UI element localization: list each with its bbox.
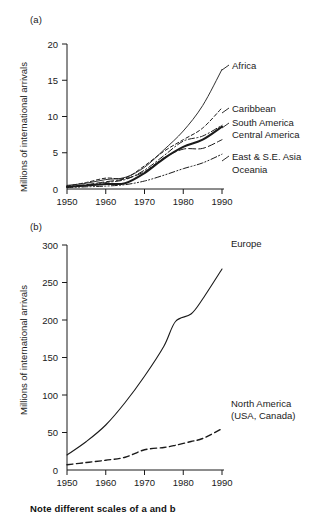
panel-b-series-group xyxy=(67,269,222,465)
panel-b-y-ticks: 300 250 200 150 100 50 0 xyxy=(42,240,67,476)
panel-b-ytick-0: 0 xyxy=(53,465,58,476)
series-line-south-america xyxy=(67,125,222,187)
panel-b-ytick-250: 250 xyxy=(42,277,58,288)
panel-a-series-group xyxy=(67,65,229,188)
panel-a-ytick-10: 10 xyxy=(47,111,58,122)
panel-a-ytick-0: 0 xyxy=(53,184,58,195)
series-label-north-america-line1: North America xyxy=(231,398,292,409)
panel-a-ytick-15: 15 xyxy=(47,75,58,86)
chart-panel-a: (a) Millions of international arrivals 2… xyxy=(0,0,315,215)
panel-a-x-ticks: 1950 1960 1970 1980 1990 xyxy=(56,189,232,207)
panel-a-y-ticks: 20 15 10 5 0 xyxy=(47,39,67,195)
figure-international-arrivals: (a) Millions of international arrivals 2… xyxy=(0,0,315,527)
series-label-central-america: Central America xyxy=(232,129,300,140)
series-line-africa xyxy=(67,69,222,185)
panel-b-xtick-1950: 1950 xyxy=(56,477,77,488)
panel-b-ytick-100: 100 xyxy=(42,390,58,401)
series-line-caribbean xyxy=(67,108,222,186)
panel-b-xtick-1960: 1960 xyxy=(95,477,116,488)
series-leader-line xyxy=(222,108,229,113)
series-label-oceania: Oceania xyxy=(232,164,268,175)
panel-a-plot: 20 15 10 5 0 1950 1960 1970 1980 1990 xyxy=(0,0,315,215)
series-label-europe: Europe xyxy=(231,238,262,249)
series-label-south-america: South America xyxy=(232,117,294,128)
panel-b-xtick-1980: 1980 xyxy=(173,477,194,488)
panel-a-xtick-1970: 1970 xyxy=(134,196,155,207)
panel-b-x-ticks: 1950 1960 1970 1980 1990 xyxy=(56,470,232,488)
panel-b-series-labels: Europe North America (USA, Canada) xyxy=(231,238,295,421)
panel-b-ytick-200: 200 xyxy=(42,315,58,326)
panel-a-xtick-1960: 1960 xyxy=(95,196,116,207)
series-line-east-s-e-asia xyxy=(67,140,222,187)
series-line-north-america-usa-canada xyxy=(67,429,222,465)
panel-b-xtick-1990: 1990 xyxy=(211,477,232,488)
series-label-africa: Africa xyxy=(232,60,257,71)
series-label-east-se-asia: East & S.E. Asia xyxy=(232,151,302,162)
panel-a-ytick-5: 5 xyxy=(53,147,58,158)
panel-a-ytick-20: 20 xyxy=(47,39,58,50)
panel-a-xtick-1950: 1950 xyxy=(56,196,77,207)
series-label-north-america-line2: (USA, Canada) xyxy=(231,410,295,421)
chart-panel-b: (b) Millions of international arrivals 3… xyxy=(0,215,315,500)
panel-b-plot: 300 250 200 150 100 50 0 1950 1960 1970 … xyxy=(0,215,315,500)
panel-a-series-labels: Africa Caribbean South America Central A… xyxy=(232,60,302,175)
panel-a-xtick-1980: 1980 xyxy=(173,196,194,207)
series-label-caribbean: Caribbean xyxy=(232,103,276,114)
panel-b-ytick-50: 50 xyxy=(47,427,58,438)
figure-note: Note different scales of a and b xyxy=(30,503,176,514)
series-line-central-america xyxy=(67,127,222,187)
panel-b-xtick-1970: 1970 xyxy=(134,477,155,488)
panel-b-ytick-300: 300 xyxy=(42,240,58,251)
panel-b-ytick-150: 150 xyxy=(42,352,58,363)
series-leader-line xyxy=(222,156,229,161)
series-line-europe xyxy=(67,269,222,455)
series-leader-line xyxy=(222,123,229,128)
panel-a-xtick-1990: 1990 xyxy=(211,196,232,207)
series-leader-line xyxy=(222,65,229,70)
